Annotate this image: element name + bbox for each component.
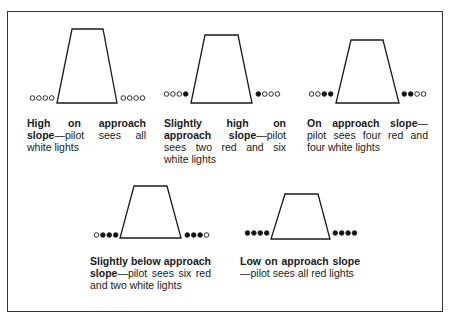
- white-light-icon: [262, 92, 267, 97]
- runway-trapezoid: [191, 35, 252, 103]
- caption-slightly-high: Slightly high on approach slope—pilot se…: [164, 117, 286, 165]
- caption-desc: —pilot sees all red lights: [240, 267, 354, 279]
- red-light-icon: [185, 233, 190, 238]
- panel-low: [245, 194, 357, 239]
- panel-slightly-below: [94, 186, 209, 238]
- red-light-icon: [245, 231, 250, 236]
- white-light-icon: [37, 96, 42, 101]
- red-light-icon: [198, 233, 203, 238]
- panel-slightly-high: [164, 35, 280, 103]
- white-light-icon: [121, 96, 126, 101]
- red-light-icon: [346, 231, 351, 236]
- white-light-icon: [275, 92, 280, 97]
- red-light-icon: [339, 231, 344, 236]
- white-light-icon: [134, 96, 139, 101]
- white-light-icon: [171, 92, 176, 97]
- red-light-icon: [402, 92, 407, 97]
- red-light-icon: [252, 231, 257, 236]
- red-light-icon: [352, 231, 357, 236]
- red-light-icon: [322, 92, 327, 97]
- red-light-icon: [191, 233, 196, 238]
- caption-on-slope: On approach slope—pilot sees four red an…: [307, 117, 428, 153]
- runway-trapezoid: [120, 186, 181, 238]
- white-light-icon: [316, 92, 321, 97]
- panel-high: [30, 29, 145, 103]
- white-light-icon: [204, 233, 209, 238]
- white-light-icon: [49, 96, 54, 101]
- caption-low: Low on approach slope—pilot sees all red…: [240, 255, 360, 279]
- white-light-icon: [127, 96, 132, 101]
- red-light-icon: [183, 92, 188, 97]
- white-light-icon: [415, 92, 420, 97]
- white-light-icon: [43, 96, 48, 101]
- white-light-icon: [309, 92, 314, 97]
- caption-slightly-below: Slightly below approach slope—pilot sees…: [90, 255, 211, 291]
- red-light-icon: [113, 233, 118, 238]
- caption-title: On approach slope: [307, 117, 418, 129]
- runway-trapezoid: [57, 29, 117, 103]
- white-light-icon: [164, 92, 169, 97]
- white-light-icon: [30, 96, 35, 101]
- caption-title: Low on approach slope: [240, 255, 360, 267]
- red-light-icon: [101, 233, 106, 238]
- runway-trapezoid: [271, 194, 330, 239]
- red-light-icon: [264, 231, 269, 236]
- red-light-icon: [256, 92, 261, 97]
- red-light-icon: [107, 233, 112, 238]
- panel-on-slope: [309, 40, 426, 103]
- red-light-icon: [333, 231, 338, 236]
- white-light-icon: [421, 92, 426, 97]
- white-light-icon: [269, 92, 274, 97]
- white-light-icon: [94, 233, 99, 238]
- runway-trapezoid: [336, 40, 399, 103]
- red-light-icon: [328, 92, 333, 97]
- white-light-icon: [140, 96, 145, 101]
- red-light-icon: [408, 92, 413, 97]
- red-light-icon: [258, 231, 263, 236]
- caption-high: High on approach slope—pilot sees all wh…: [27, 117, 146, 153]
- white-light-icon: [177, 92, 182, 97]
